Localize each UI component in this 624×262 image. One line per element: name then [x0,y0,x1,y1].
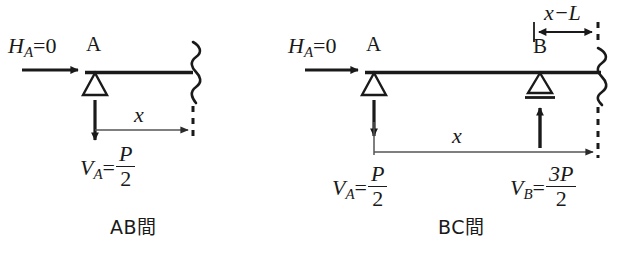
va-label-ab: VA= P 2 [80,143,136,190]
ha-label-bc: HA=0 [288,35,336,60]
cut-zigzag-bc [598,48,606,105]
dim-x-label-bc: x [452,125,462,147]
dim-x-label-ab: x [134,104,144,126]
vb-subscript: B [523,186,532,202]
ha-subscript-bc: A [304,44,313,60]
va-denominator: 2 [116,167,135,190]
figure-canvas: HA=0 A x VA= P 2 AB間 HA=0 A B x−L x VA= … [0,0,624,262]
ha-symbol: H [8,33,24,58]
vb-denominator: 2 [546,187,576,210]
va-equals-bc: = [355,175,367,200]
support-b-bc [525,73,555,98]
va-numerator: P [116,143,135,167]
ha-symbol-bc: H [288,33,304,58]
vb-numerator: 3P [546,163,576,187]
va-label-bc: VA= P 2 [332,163,388,210]
vb-fraction: 3P 2 [546,163,576,210]
vb-symbol: V [510,175,523,200]
ha-value: 0 [45,33,56,58]
va-equals: = [103,155,115,180]
ha-equals-bc: = [313,33,325,58]
vb-label-bc: VB= 3P 2 [510,163,577,210]
point-label-a-bc: A [366,34,381,55]
va-fraction: P 2 [116,143,135,190]
va-subscript: A [93,166,102,182]
dim-x-bc [374,122,593,155]
va-denominator-bc: 2 [368,187,387,210]
va-symbol: V [80,155,93,180]
ha-value-bc: 0 [325,33,336,58]
dim-x-minus-l-label: x−L [544,2,581,24]
va-fraction-bc: P 2 [368,163,387,210]
va-subscript-bc: A [345,186,354,202]
support-a-bc [362,73,386,95]
point-label-b-bc: B [533,36,547,57]
cut-zigzag-ab [192,42,200,103]
point-label-a-ab: A [86,34,101,55]
va-numerator-bc: P [368,163,387,187]
va-symbol-bc: V [332,175,345,200]
ha-label-ab: HA=0 [8,35,56,60]
caption-ab: AB間 [110,218,157,237]
ha-equals: = [33,33,45,58]
support-a-ab [83,73,107,95]
ha-subscript: A [24,44,33,60]
vb-equals: = [533,175,545,200]
caption-bc: BC間 [438,218,484,237]
